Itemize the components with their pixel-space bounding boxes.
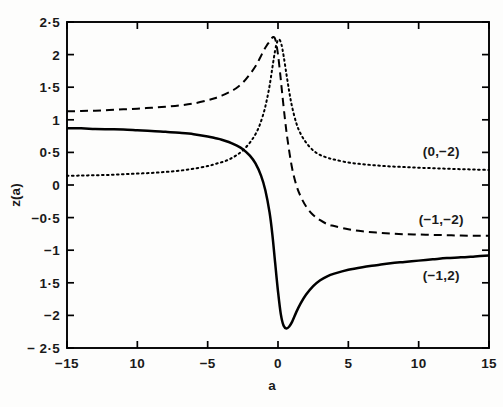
y-tick-label: 2·5	[40, 15, 60, 30]
y-axis-title: z(a)	[4, 160, 26, 230]
y-tick-label: −0·5	[31, 210, 60, 225]
x-tick-label: −15	[55, 356, 79, 371]
x-tick-label: 10	[130, 356, 146, 371]
y-tick-label: 0	[52, 178, 60, 193]
y-tick-label: −2	[44, 308, 60, 323]
x-tick-label: 15	[481, 356, 497, 371]
y-tick-label: − 2·5	[27, 341, 60, 356]
chart-canvas	[0, 0, 503, 407]
y-tick-label: 2	[52, 47, 60, 62]
y-tick-label: 1·5	[40, 80, 60, 95]
figure-container: z(a) a 2·521·510·50−0·5−11·5−2− 2·5 −151…	[0, 0, 503, 407]
y-tick-label: −1	[44, 243, 60, 258]
y-tick-label: 0·5	[40, 145, 60, 160]
y-tick-label: 1·5	[40, 275, 60, 290]
x-axis-title: a	[268, 378, 276, 393]
x-tick-label: 0	[274, 356, 282, 371]
y-tick-label: 1	[52, 112, 60, 127]
x-tick-label: 5	[344, 356, 352, 371]
data-curves	[67, 37, 489, 329]
curve-label-3: (0,−2)	[423, 144, 460, 159]
x-tick-label: −5	[200, 356, 216, 371]
curve-2	[67, 37, 489, 236]
curve-label-2: (−1,−2)	[419, 211, 464, 226]
curve-label-1: (−1,2)	[423, 267, 460, 282]
y-axis-title-text: z(a)	[8, 183, 23, 206]
x-tick-label: 10	[411, 356, 427, 371]
